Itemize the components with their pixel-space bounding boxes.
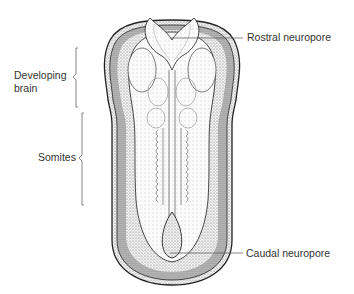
label-caudal-neuropore: Caudal neuropore bbox=[246, 247, 330, 260]
label-developing-brain-line2: brain bbox=[14, 82, 67, 95]
brain-bracket bbox=[73, 48, 78, 107]
label-developing-brain-line1: Developing bbox=[14, 69, 67, 82]
label-rostral-neuropore: Rostral neuropore bbox=[247, 31, 331, 44]
label-developing-brain: Developing brain bbox=[14, 69, 67, 95]
neural-plate bbox=[128, 18, 216, 262]
label-somites: Somites bbox=[38, 151, 76, 164]
somites-bracket bbox=[79, 113, 84, 205]
